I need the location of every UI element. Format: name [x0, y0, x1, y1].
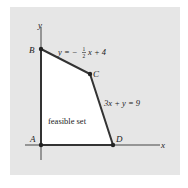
equation-cd: 3x + y = 9: [103, 98, 141, 108]
vertex-a: [39, 143, 43, 147]
vertex-b: [39, 47, 43, 51]
equation-bc-frac-den: 2: [83, 53, 86, 59]
equation-bc-rhs: x + 4: [87, 47, 107, 57]
point-label-d: D: [115, 134, 123, 144]
equation-bc-lhs: y = −: [57, 47, 78, 57]
feasible-set-label: feasible set: [48, 116, 87, 126]
point-label-c: C: [93, 69, 100, 79]
x-axis-label: x: [160, 140, 165, 150]
y-axis-label: y: [37, 20, 42, 30]
point-label-b: B: [29, 45, 35, 55]
vertex-c: [88, 72, 92, 76]
equation-bc-frac-num: 1: [83, 46, 86, 52]
equation-bc: y = − 1 2 x + 4: [57, 46, 107, 59]
feasible-region: [41, 49, 113, 145]
feasible-set-diagram: y x A B C D y = − 1 2 x + 4 3x + y = 9 f…: [0, 0, 188, 188]
vertex-d: [111, 143, 115, 147]
point-label-a: A: [29, 134, 36, 144]
